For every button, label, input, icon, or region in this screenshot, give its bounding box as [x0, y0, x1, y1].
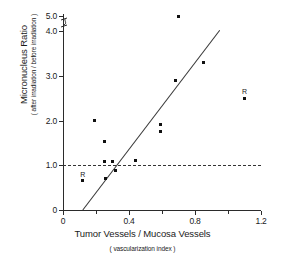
data-point: [134, 159, 137, 162]
y-tick-label-2.0: 2.0: [46, 116, 57, 126]
data-point: [243, 97, 246, 100]
x-tick-label-1.2: 1.2: [241, 216, 281, 226]
y-axis-title-main: Micronucleus Ratio: [18, 0, 29, 135]
x-axis-title-main: Tumor Vessels / Mucosa Vessels: [0, 228, 285, 239]
y-tick-label-5.0: 5.0: [46, 11, 57, 21]
x-tick-1.2: [261, 211, 262, 215]
x-axis-title-sub: ( vascularization index ): [0, 245, 285, 252]
y-axis-title-sub: ( after irradiation / before irradiation…: [30, 0, 37, 135]
x-tick-0.8: [195, 211, 196, 215]
regression-fit-line: [63, 14, 261, 210]
x-tick-0.4: [129, 211, 130, 215]
data-point-label-R: R: [242, 88, 247, 95]
x-tick-1: [228, 211, 229, 214]
data-point-label-R: R: [80, 171, 85, 178]
data-point: [202, 61, 205, 64]
data-point: [177, 15, 180, 18]
data-point: [159, 130, 162, 133]
scatter-plot-figure: 01.02.03.04.05.0 00.40.81.2 RR Micronucl…: [0, 0, 285, 263]
x-tick-label-0.8: 0.8: [175, 216, 215, 226]
x-tick-label-0: 0: [43, 216, 83, 226]
data-point: [114, 169, 117, 172]
data-point: [103, 160, 106, 163]
y-tick-label-1.0: 1.0: [46, 160, 57, 170]
x-tick-0.2: [96, 211, 97, 214]
data-point: [111, 160, 114, 163]
x-tick-label-0.4: 0.4: [109, 216, 149, 226]
data-point: [103, 140, 106, 143]
y-tick-label-0: 0: [52, 205, 57, 215]
x-tick-0.6: [162, 211, 163, 214]
data-point: [93, 119, 96, 122]
y-tick-label-4.0: 4.0: [46, 26, 57, 36]
x-tick-0: [63, 211, 64, 215]
data-point: [174, 79, 177, 82]
data-point: [159, 123, 162, 126]
y-tick-label-3.0: 3.0: [46, 71, 57, 81]
y-axis-title: Micronucleus Ratio ( after irradiation /…: [18, 0, 37, 135]
data-point: [104, 177, 107, 180]
data-point: [81, 179, 84, 182]
